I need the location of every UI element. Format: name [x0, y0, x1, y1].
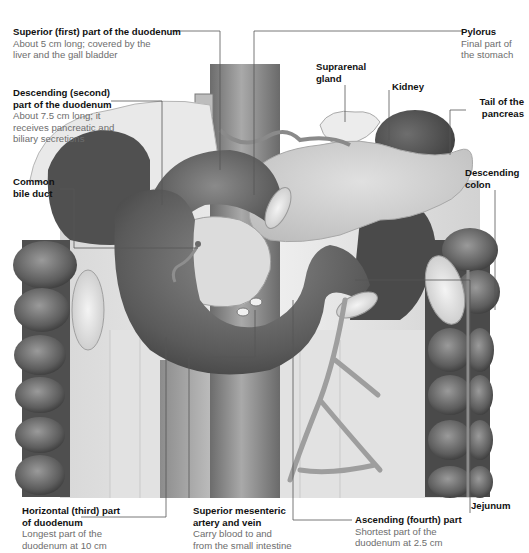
label-superior-mesenteric-vessels: Superior mesenteric artery and vein Carr… — [193, 505, 292, 551]
label-description-line1: Carry blood to and — [193, 528, 292, 540]
label-title-line1: Descending (second) — [13, 87, 123, 99]
label-tail-of-pancreas: Tail of the pancreas — [468, 96, 524, 119]
label-superior-duodenum: Superior (first) part of the duodenum Ab… — [13, 26, 183, 61]
bile-duct-papilla — [195, 241, 201, 247]
label-title-line2: pancreas — [468, 108, 524, 120]
label-title: Ascending (fourth) part — [355, 514, 462, 526]
duodenum-anatomy-illustration — [0, 0, 529, 553]
label-title-line2: artery and vein — [193, 517, 292, 529]
label-title-line1: Horizontal (third) part — [22, 505, 120, 517]
label-title-line2: of duodenum — [22, 517, 120, 529]
label-description: Final part of the stomach — [461, 38, 516, 61]
label-title: Superior (first) part of the duodenum — [13, 26, 183, 38]
label-description: About 5 cm long; covered by the liver an… — [13, 38, 163, 61]
label-title-line2: part of the duodenum — [13, 99, 123, 111]
label-ascending-duodenum: Ascending (fourth) part Shortest part of… — [355, 514, 462, 549]
label-descending-duodenum: Descending (second) part of the duodenum… — [13, 87, 123, 145]
descending-colon — [419, 228, 500, 498]
label-pylorus: Pylorus Final part of the stomach — [461, 26, 521, 61]
label-title: Kidney — [392, 81, 424, 93]
label-description-line2: receives pancreatic and — [13, 122, 123, 134]
label-title-line2: colon — [465, 179, 519, 191]
label-description-line2: from the small intestine — [193, 540, 292, 552]
label-title-line1: Suprarenal — [316, 61, 366, 73]
label-title-line2: gland — [316, 73, 366, 85]
label-description-line1: Longest part of the — [22, 528, 120, 540]
label-common-bile-duct: Common bile duct — [13, 176, 55, 199]
label-title-line1: Superior mesenteric — [193, 505, 292, 517]
label-title-line1: Common — [13, 176, 55, 188]
label-description-line3: biliary secretions — [13, 133, 123, 145]
label-title-line1: Tail of the — [468, 96, 524, 108]
label-description-line2: duodenum at 2.5 cm — [355, 537, 462, 549]
label-horizontal-duodenum: Horizontal (third) part of duodenum Long… — [22, 505, 120, 551]
label-description-line2: duodenum at 10 cm — [22, 540, 120, 552]
label-suprarenal-gland: Suprarenal gland — [316, 61, 366, 84]
label-description-line1: Shortest part of the — [355, 526, 462, 538]
label-title-line1: Descending — [465, 167, 519, 179]
label-kidney: Kidney — [392, 81, 424, 93]
label-title-line2: bile duct — [13, 188, 55, 200]
label-description-line1: About 7.5 cm long; it — [13, 110, 123, 122]
label-jejunum: Jejunum — [471, 500, 510, 512]
label-title: Pylorus — [461, 26, 521, 38]
label-title: Jejunum — [471, 500, 510, 512]
label-descending-colon: Descending colon — [465, 167, 519, 190]
